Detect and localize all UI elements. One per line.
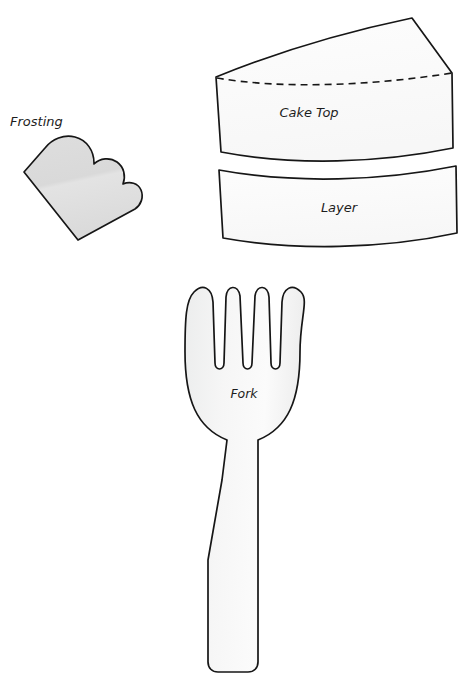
pattern-sheet-canvas: Frosting Cake Top Layer Fork xyxy=(0,0,471,678)
piece-cake-top[interactable]: Cake Top xyxy=(216,18,453,161)
cake-top-outline xyxy=(216,18,453,161)
piece-layer[interactable]: Layer xyxy=(219,166,457,247)
frosting-label: Frosting xyxy=(10,114,63,129)
frosting-outline xyxy=(24,136,142,240)
layer-label: Layer xyxy=(321,200,359,215)
piece-fork[interactable]: Fork xyxy=(185,287,304,672)
fork-outline xyxy=(185,287,304,672)
cake-top-label: Cake Top xyxy=(279,105,338,120)
piece-frosting[interactable]: Frosting xyxy=(10,114,142,240)
fork-label: Fork xyxy=(230,386,258,401)
pattern-sheet: Frosting Cake Top Layer Fork xyxy=(0,0,471,678)
